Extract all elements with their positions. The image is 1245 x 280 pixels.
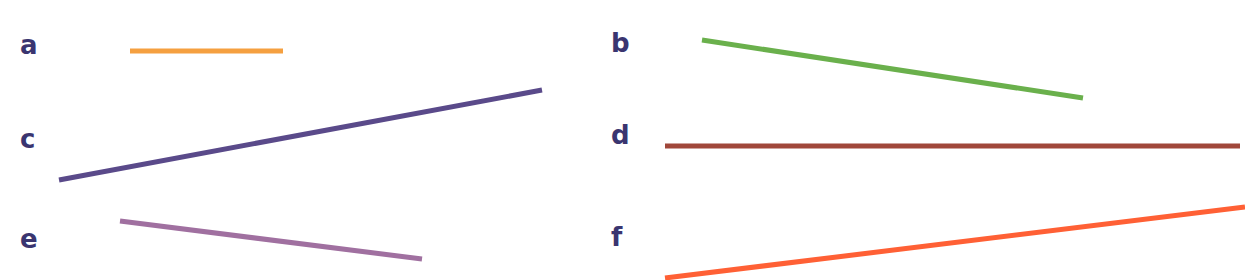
line-e: [120, 221, 422, 259]
label-f: f: [611, 224, 622, 250]
line-worksheet: a b c d e f: [0, 0, 1245, 280]
label-c: c: [20, 126, 35, 152]
line-f: [665, 207, 1245, 278]
label-b: b: [611, 30, 630, 56]
label-a: a: [20, 32, 38, 58]
label-e: e: [20, 226, 38, 252]
line-b: [702, 40, 1083, 98]
label-d: d: [611, 122, 630, 148]
line-c: [59, 90, 542, 180]
